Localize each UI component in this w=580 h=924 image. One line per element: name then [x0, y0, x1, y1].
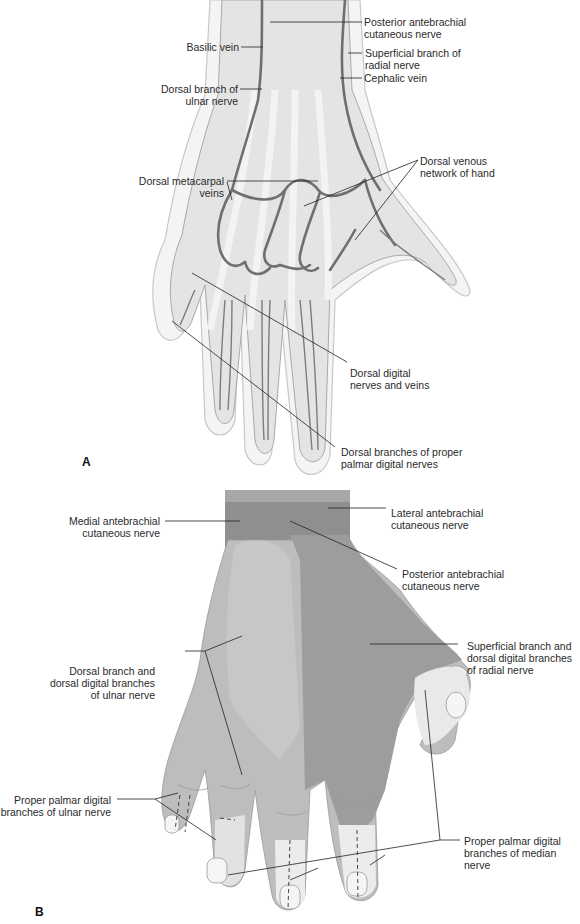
label-line: Superficial branch of [365, 47, 461, 59]
label-posterior-antebrachial-b: Posterior antebrachial cutaneous nerve [402, 568, 504, 592]
label-line: Superficial branch and [467, 640, 572, 652]
label-line: dorsal digital branches [467, 652, 572, 664]
label-proper-palmar-median: Proper palmar digital branches of median… [464, 835, 561, 871]
label-dorsal-branch-ulnar: Dorsal branch of ulnar nerve [161, 83, 238, 107]
label-line: of ulnar nerve [50, 689, 155, 701]
label-line: branches of ulnar nerve [1, 806, 111, 818]
label-line: dorsal digital branches [50, 677, 155, 689]
label-dorsal-branches-proper-palmar: Dorsal branches of proper palmar digital… [341, 446, 462, 470]
label-superficial-radial: Superficial branch of radial nerve [365, 47, 461, 71]
label-dorsal-venous-network: Dorsal venous network of hand [420, 155, 495, 179]
panel-letter-b: B [35, 905, 44, 919]
label-line: Proper palmar digital [464, 835, 561, 847]
label-line: radial nerve [365, 59, 461, 71]
label-line: Medial antebrachial [69, 515, 160, 527]
label-line: Dorsal venous [420, 155, 495, 167]
label-line: Dorsal branch and [50, 665, 155, 677]
label-line: nerves and veins [350, 379, 429, 391]
label-line: of radial nerve [467, 664, 572, 676]
label-line: Proper palmar digital [1, 794, 111, 806]
label-posterior-antebrachial-a: Posterior antebrachial cutaneous nerve [364, 16, 466, 40]
panel-b-hand [162, 490, 471, 910]
label-line: veins [139, 187, 224, 199]
label-line: cutaneous nerve [69, 527, 160, 539]
label-line: ulnar nerve [161, 95, 238, 107]
label-line: cutaneous nerve [402, 580, 504, 592]
label-line: Dorsal branch of [161, 83, 238, 95]
label-basilic-vein: Basilic vein [186, 41, 239, 53]
label-line: network of hand [420, 167, 495, 179]
label-line: nerve [464, 859, 561, 871]
label-line: Dorsal branches of proper [341, 446, 462, 458]
label-line: Cephalic vein [364, 72, 427, 84]
label-lateral-antebrachial: Lateral antebrachial cutaneous nerve [391, 507, 483, 531]
label-superficial-radial-digital: Superficial branch and dorsal digital br… [467, 640, 572, 676]
label-line: Dorsal metacarpal [139, 175, 224, 187]
label-dorsal-ulnar-digital: Dorsal branch and dorsal digital branche… [50, 665, 155, 701]
label-line: Posterior antebrachial [364, 16, 466, 28]
label-dorsal-digital-nerves-veins: Dorsal digital nerves and veins [350, 367, 429, 391]
label-line: Dorsal digital [350, 367, 429, 379]
label-dorsal-metacarpal-veins: Dorsal metacarpal veins [139, 175, 224, 199]
label-medial-antebrachial: Medial antebrachial cutaneous nerve [69, 515, 160, 539]
panel-letter-a: A [82, 455, 91, 469]
label-line: Basilic vein [186, 41, 239, 53]
label-line: cutaneous nerve [391, 519, 483, 531]
label-line: cutaneous nerve [364, 28, 466, 40]
label-line: palmar digital nerves [341, 458, 462, 470]
label-line: Lateral antebrachial [391, 507, 483, 519]
label-cephalic-vein: Cephalic vein [364, 72, 427, 84]
label-line: branches of median [464, 847, 561, 859]
label-proper-palmar-ulnar: Proper palmar digital branches of ulnar … [1, 794, 111, 818]
label-line: Posterior antebrachial [402, 568, 504, 580]
